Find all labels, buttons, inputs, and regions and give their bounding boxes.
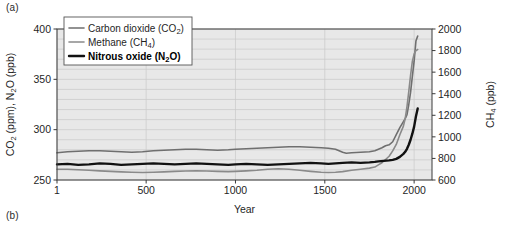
x-tick-label: 500 <box>137 184 155 196</box>
x-axis-title: Year <box>234 203 256 215</box>
y-left-tick-label: 300 <box>33 123 51 135</box>
y-right-tick-label: 1000 <box>438 131 462 143</box>
y-right-tick-label: 2000 <box>438 23 462 35</box>
y-right-tick-label: 1400 <box>438 88 462 100</box>
y-right-tick-label: 1200 <box>438 109 462 121</box>
y-left-tick-label: 400 <box>33 23 51 35</box>
y-right-tick-label: 600 <box>438 174 456 186</box>
x-tick-label: 2000 <box>402 184 426 196</box>
y-axis-right-title: CH4 (ppb) <box>484 81 498 128</box>
chart-legend[interactable]: Carbon dioxide (CO2)Methane (CH4)Nitrous… <box>64 17 192 65</box>
y-right-tick-label: 1600 <box>438 66 462 78</box>
y-right-tick-label: 1800 <box>438 44 462 56</box>
greenhouse-gas-concentration-chart: 1500100015002000250300350400600800100012… <box>0 0 505 232</box>
y-left-tick-label: 350 <box>33 73 51 85</box>
x-tick-label: 1 <box>54 184 60 196</box>
y-axis-left-title: CO2 (ppm), N2O (ppb) <box>4 53 18 157</box>
y-right-tick-label: 800 <box>438 152 456 164</box>
y-left-tick-label: 250 <box>33 174 51 186</box>
x-tick-label: 1000 <box>224 184 248 196</box>
x-tick-label: 1500 <box>313 184 337 196</box>
